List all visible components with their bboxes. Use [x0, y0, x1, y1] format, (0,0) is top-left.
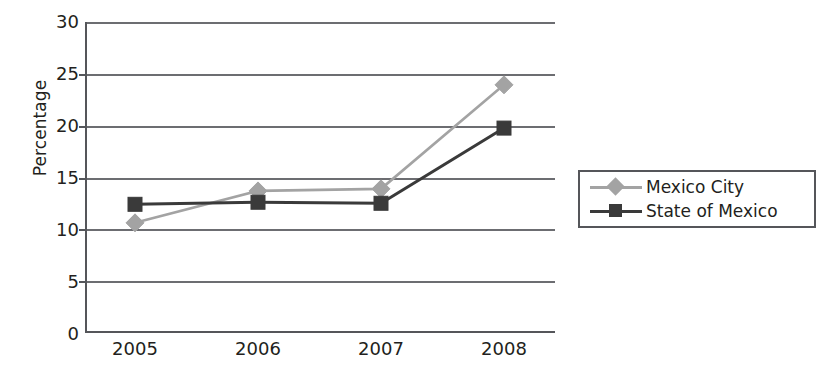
diamond-marker-icon	[588, 176, 644, 198]
series-line	[135, 128, 504, 204]
y-tick-label-15: 15	[45, 169, 79, 187]
legend-label-state-of-mexico: State of Mexico	[646, 201, 778, 221]
chart-figure: Percentage 30 25 20 15 10 5 0 2005 2006 …	[0, 0, 832, 380]
y-tick-label-20: 20	[45, 117, 79, 135]
y-tick-label-10: 10	[45, 221, 79, 239]
legend-entry-state-of-mexico: State of Mexico	[588, 199, 778, 223]
data-point-square	[251, 195, 265, 209]
x-tick-label-2006: 2006	[218, 338, 298, 360]
y-tick-label-0: 0	[45, 325, 79, 343]
y-axis-tick-labels: 30 25 20 15 10 5 0	[43, 22, 79, 333]
y-tick-label-5: 5	[45, 273, 79, 291]
x-tick-label-2005: 2005	[95, 338, 175, 360]
square-marker-icon	[588, 200, 644, 222]
data-point-square	[374, 196, 388, 210]
plot-area	[85, 22, 555, 333]
chart-legend: Mexico City State of Mexico	[578, 170, 816, 228]
x-axis-tick-labels: 2005 2006 2007 2008	[85, 338, 555, 366]
data-point-square	[497, 121, 511, 135]
legend-label-mexico-city: Mexico City	[646, 177, 744, 197]
series-mexico-city	[126, 76, 513, 232]
x-tick-label-2008: 2008	[464, 338, 544, 360]
y-tick-label-25: 25	[45, 65, 79, 83]
x-tick-label-2007: 2007	[341, 338, 421, 360]
series-plot	[85, 22, 555, 333]
data-point-square	[128, 197, 142, 211]
series-state-of-mexico	[128, 121, 511, 211]
y-tick-label-30: 30	[45, 13, 79, 31]
data-point-diamond	[126, 214, 144, 232]
legend-entry-mexico-city: Mexico City	[588, 175, 744, 199]
